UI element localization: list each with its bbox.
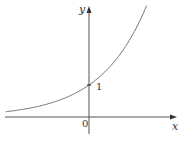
- x-axis-arrow-icon: [170, 115, 177, 120]
- plot-canvas: [0, 0, 180, 142]
- y-axis-label: y: [79, 4, 85, 15]
- x-axis-label: x: [172, 121, 178, 132]
- origin-label: 0: [82, 119, 88, 129]
- y-axis-arrow-icon: [87, 6, 92, 13]
- exponential-curve: [6, 6, 147, 112]
- exponential-graph: y x 0 1: [0, 0, 180, 142]
- y-intercept-label: 1: [96, 82, 102, 92]
